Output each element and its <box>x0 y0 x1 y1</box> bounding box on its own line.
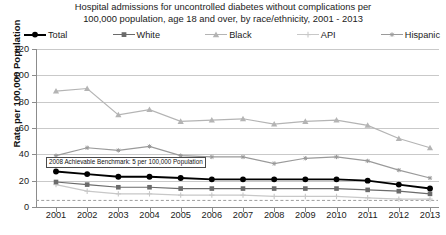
data-point-plus <box>427 196 432 201</box>
legend-item-white[interactable]: White <box>113 29 161 40</box>
y-tick-label: 0 <box>24 202 29 212</box>
legend-marker-triangle-icon <box>205 29 227 40</box>
legend-label: API <box>320 30 336 40</box>
y-tick-label: 100 <box>14 70 29 80</box>
x-tick-mark <box>368 208 369 212</box>
legend-marker-square-icon <box>113 29 135 40</box>
data-point-square <box>303 186 308 191</box>
data-point-plus <box>396 196 401 201</box>
legend-label: Hispanic <box>404 30 440 40</box>
y-tick-label: 40 <box>19 149 29 159</box>
data-point-plus <box>178 192 183 197</box>
y-tick-label: 120 <box>14 44 29 54</box>
data-point-asterisk <box>85 146 89 150</box>
x-tick-mark <box>181 208 182 212</box>
data-point-plus <box>209 192 214 197</box>
x-tick-mark <box>337 208 338 212</box>
data-point-triangle <box>213 31 219 37</box>
data-point-plus <box>84 189 89 194</box>
data-point-asterisk <box>428 176 432 180</box>
data-point-asterisk <box>397 168 401 172</box>
data-point-circle <box>334 176 340 182</box>
x-tick-mark <box>150 208 151 212</box>
data-point-square <box>116 185 121 190</box>
data-point-square <box>54 180 59 185</box>
data-point-triangle <box>146 106 152 112</box>
x-tick-mark <box>87 208 88 212</box>
legend-item-hispanic[interactable]: Hispanic <box>381 29 440 40</box>
data-point-asterisk <box>303 156 307 160</box>
data-point-plus <box>334 194 339 199</box>
chart-title-line-1: Hospital admissions for uncontrolled dia… <box>0 1 446 13</box>
data-point-circle <box>271 176 277 182</box>
data-point-circle <box>178 175 184 181</box>
x-tick-mark <box>243 208 244 212</box>
legend-label: White <box>136 30 161 40</box>
chart-legend: TotalWhiteBlackAPIHispanic <box>24 27 440 42</box>
data-point-plus <box>147 191 152 196</box>
chart-container: Hospital admissions for uncontrolled dia… <box>0 0 446 235</box>
series-black <box>53 85 433 150</box>
data-point-asterisk <box>366 159 370 163</box>
legend-item-black[interactable]: Black <box>205 29 251 40</box>
data-point-plus <box>365 195 370 200</box>
chart-title-line-2: 100,000 population, age 18 and over, by … <box>0 13 446 25</box>
data-point-square <box>365 188 370 193</box>
data-point-asterisk <box>390 32 394 36</box>
data-point-circle <box>240 176 246 182</box>
x-tick-mark <box>274 208 275 212</box>
series-layer <box>36 49 438 207</box>
x-tick-mark <box>305 208 306 212</box>
data-point-square <box>121 32 126 37</box>
y-axis-labels: 020406080100120 <box>0 49 34 207</box>
legend-marker-plus-icon <box>297 29 319 40</box>
data-point-circle <box>427 186 433 192</box>
x-axis-labels: 2001200220032004200520062007200820092010… <box>36 210 438 224</box>
data-point-asterisk <box>241 155 245 159</box>
x-tick-mark <box>399 208 400 212</box>
x-tick-mark <box>118 208 119 212</box>
data-point-square <box>210 186 215 191</box>
series-api <box>53 182 432 202</box>
data-point-circle <box>84 171 90 177</box>
benchmark-annotation: 2008 Achievable Benchmark: 5 per 100,000… <box>46 157 206 168</box>
data-point-plus <box>303 194 308 199</box>
data-point-circle <box>32 32 38 38</box>
data-point-square <box>85 182 90 187</box>
data-point-plus <box>240 192 245 197</box>
data-point-square <box>428 192 433 197</box>
y-tick-label: 80 <box>19 97 29 107</box>
data-point-circle <box>147 174 153 180</box>
data-point-plus <box>271 194 276 199</box>
data-point-square <box>147 185 152 190</box>
data-point-asterisk <box>334 155 338 159</box>
legend-label: Black <box>228 30 251 40</box>
data-point-circle <box>302 176 308 182</box>
data-point-plus <box>116 191 121 196</box>
data-point-square <box>272 186 277 191</box>
legend-marker-circle-icon <box>24 29 46 40</box>
data-point-square <box>241 186 246 191</box>
legend-item-api[interactable]: API <box>297 29 336 40</box>
x-tick-mark <box>212 208 213 212</box>
data-point-circle <box>396 182 402 188</box>
data-point-square <box>334 186 339 191</box>
y-tick-label: 60 <box>19 123 29 133</box>
data-point-circle <box>53 169 59 175</box>
data-point-asterisk <box>116 148 120 152</box>
data-point-square <box>397 189 402 194</box>
data-point-circle <box>209 176 215 182</box>
legend-label: Total <box>47 30 67 40</box>
x-tick-mark <box>430 208 431 212</box>
legend-marker-asterisk-icon <box>381 29 403 40</box>
data-point-asterisk <box>272 161 276 165</box>
data-point-square <box>178 186 183 191</box>
data-point-circle <box>365 178 371 184</box>
x-tick-mark <box>56 208 57 212</box>
data-point-asterisk <box>210 155 214 159</box>
chart-title: Hospital admissions for uncontrolled dia… <box>0 1 446 24</box>
data-point-circle <box>115 174 121 180</box>
data-point-asterisk <box>147 144 151 148</box>
y-tick-label: 20 <box>19 176 29 186</box>
legend-item-total[interactable]: Total <box>24 29 67 40</box>
